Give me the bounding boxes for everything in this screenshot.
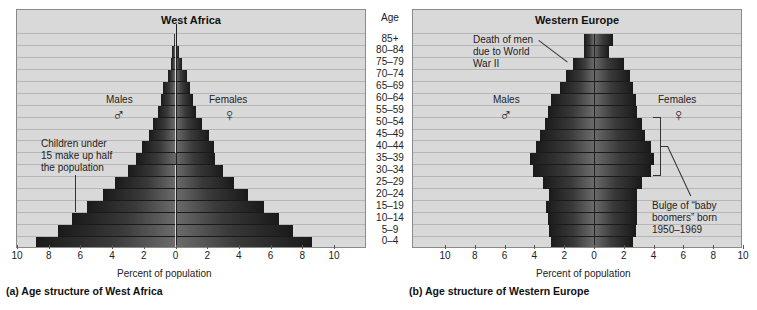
western-europe-x-tick-label: 10	[733, 250, 753, 261]
west-africa-center-axis	[176, 24, 177, 247]
western-europe-female-bar	[594, 237, 633, 248]
age-group-label: 25–29	[368, 176, 412, 188]
west-africa-x-tick-label: 10	[7, 250, 27, 261]
west-africa-female-bar	[176, 118, 203, 130]
western-europe-x-tick-label: 2	[614, 250, 634, 261]
western-europe-x-tick-mark	[683, 245, 684, 249]
west-africa-male-bar	[36, 237, 175, 248]
west-africa-x-tick-label: 6	[70, 250, 90, 261]
west-africa-male-bar	[87, 201, 176, 213]
western-europe-male-bar	[548, 213, 594, 225]
western-europe-male-bar	[549, 225, 594, 237]
west-africa-male-bar	[168, 70, 176, 82]
western-europe-female-bar	[594, 213, 637, 225]
west-africa-x-tick-mark	[176, 245, 177, 249]
gridline	[413, 33, 741, 34]
western-europe-male-bar	[551, 94, 594, 106]
western-europe-female-bar	[594, 153, 654, 165]
west-africa-male-bar	[72, 213, 175, 225]
western-europe-center-axis	[594, 34, 595, 247]
western-europe-x-tick-mark	[654, 245, 655, 249]
west-africa-male-bar	[58, 225, 175, 237]
western-europe-x-tick-label: 8	[703, 250, 723, 261]
gridline	[17, 45, 365, 46]
age-group-label: 50–54	[368, 116, 412, 128]
western-europe-male-bar	[548, 106, 594, 118]
age-group-label: 5–9	[368, 224, 412, 236]
west-africa-x-tick-label: 8	[292, 250, 312, 261]
gridline	[17, 81, 365, 82]
west-africa-x-tick-mark	[207, 245, 208, 249]
western-europe-male-bar	[560, 82, 594, 94]
west-africa-male-bar	[163, 82, 176, 94]
western-europe-female-bar	[594, 189, 637, 201]
west-africa-female-bar	[176, 153, 216, 165]
west-africa-x-tick-label: 8	[39, 250, 59, 261]
west-africa-female-bar	[176, 225, 293, 237]
western-europe-female-bar	[594, 225, 636, 237]
west-africa-male-bar	[115, 177, 175, 189]
baby-boomers-annotation: Bulge of “babyboomers” born1950–1969	[652, 200, 717, 236]
west-africa-x-tick-mark	[334, 245, 335, 249]
western-europe-x-tick-mark	[624, 245, 625, 249]
gridline	[17, 69, 365, 70]
west-africa-female-bar	[176, 165, 224, 177]
age-group-label: 65–69	[368, 80, 412, 92]
age-group-label: 40–44	[368, 140, 412, 152]
west-africa-male-bar	[128, 165, 176, 177]
west-africa-male-bar	[153, 118, 175, 130]
western-europe-female-bar	[594, 130, 645, 142]
western-europe-x-tick-label: 4	[524, 250, 544, 261]
western-europe-female-bar	[594, 141, 651, 153]
age-group-label: 30–34	[368, 164, 412, 176]
western-europe-male-bar	[540, 130, 594, 142]
west-africa-x-tick-mark	[112, 245, 113, 249]
western-europe-female-bar	[594, 118, 642, 130]
western-europe-male-bar	[573, 58, 594, 70]
western-europe-caption: (b) Age structure of Western Europe	[409, 285, 589, 297]
western-europe-male-bar	[546, 201, 594, 213]
west-africa-male-bar	[136, 153, 176, 165]
ww2-deaths-annotation: Death of mendue to WorldWar II	[473, 34, 533, 70]
west-africa-x-tick-mark	[80, 245, 81, 249]
western-europe-female-bar	[594, 70, 630, 82]
west-africa-female-bar	[176, 82, 190, 94]
west-africa-x-tick-mark	[17, 245, 18, 249]
western-europe-male-bar	[545, 118, 594, 130]
western-europe-x-tick-label: 4	[644, 250, 664, 261]
age-group-label: 80–84	[368, 44, 412, 56]
age-group-label: 20–24	[368, 188, 412, 200]
western-europe-female-symbol-icon: ♀	[672, 106, 686, 124]
western-europe-x-tick-mark	[743, 245, 744, 249]
western-europe-female-bar	[594, 94, 636, 106]
west-africa-male-bar	[158, 106, 175, 118]
western-europe-x-tick-label: 6	[495, 250, 515, 261]
western-europe-male-bar	[533, 165, 594, 177]
west-africa-female-bar	[176, 141, 214, 153]
west-africa-title: West Africa	[17, 14, 365, 26]
western-europe-male-bar	[551, 237, 594, 248]
age-group-label: 60–64	[368, 92, 412, 104]
western-europe-male-symbol-icon: ♂	[499, 106, 513, 124]
west-africa-female-bar	[176, 106, 197, 118]
gridline	[17, 33, 365, 34]
west-africa-male-bar	[103, 189, 176, 201]
west-africa-male-bar	[149, 130, 176, 142]
age-group-label: 10–14	[368, 212, 412, 224]
western-europe-x-tick-label: 6	[673, 250, 693, 261]
western-europe-x-tick-label: 8	[465, 250, 485, 261]
age-group-label: 85+	[368, 33, 412, 45]
west-africa-female-bar	[176, 189, 249, 201]
west-africa-male-bar	[161, 94, 175, 106]
west-africa-x-tick-label: 2	[134, 250, 154, 261]
west-africa-female-bar	[176, 201, 265, 213]
west-africa-x-axis-label: Percent of population	[117, 268, 212, 279]
west-africa-x-tick-mark	[239, 245, 240, 249]
western-europe-female-bar	[594, 58, 624, 70]
west-africa-chart-panel: West Africa	[16, 9, 366, 248]
gridline	[17, 57, 365, 58]
age-group-label: 70–74	[368, 68, 412, 80]
western-europe-x-tick-mark	[505, 245, 506, 249]
west-africa-female-bar	[176, 130, 209, 142]
western-europe-x-tick-mark	[564, 245, 565, 249]
